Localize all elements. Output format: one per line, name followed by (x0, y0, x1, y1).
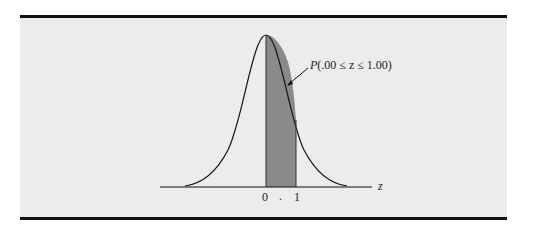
tick-separator: . (279, 189, 282, 204)
probability-annotation: P(.00 ≤ z ≤ 1.00) (310, 58, 392, 73)
tick-label-0: 0 (262, 190, 268, 205)
annotation-arrow (289, 68, 308, 84)
normal-curve-diagram (0, 0, 546, 236)
axis-label-z: z (378, 179, 383, 194)
tick-label-1: 1 (294, 190, 300, 205)
